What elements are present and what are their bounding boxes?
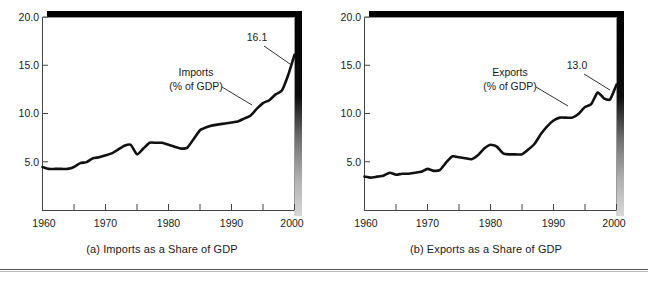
chart-panel-imports: 20.0 15.0 10.0 5.0 1960 1970 1980 1990 2…	[0, 0, 324, 281]
y-tick-label-5: 5.0	[346, 156, 361, 168]
frame-shadow-top	[47, 11, 300, 18]
endpoint-value-label: 13.0	[567, 59, 588, 71]
panel-b-caption: (b) Exports as a Share of GDP	[324, 243, 648, 255]
panel-a-caption: (a) Imports as a Share of GDP	[0, 243, 324, 255]
x-tick-label-1960: 1960	[354, 217, 378, 229]
x-tick-label-2000: 2000	[280, 217, 304, 229]
frame-shadow-right	[616, 11, 624, 216]
endpoint-leader-line	[264, 46, 290, 64]
x-tick-label-1970: 1970	[94, 217, 118, 229]
endpoint-leader-line	[584, 74, 610, 90]
y-tick-label-15: 15.0	[341, 59, 362, 71]
imports-data-line	[43, 55, 295, 169]
y-tick-label-20: 20.0	[341, 11, 362, 23]
frame-shadow-top	[369, 11, 622, 18]
x-tick-label-1960: 1960	[32, 217, 56, 229]
y-tick-label-10: 10.0	[341, 107, 362, 119]
x-tick-label-1990: 1990	[220, 217, 244, 229]
chart-panel-exports: 20.0 15.0 10.0 5.0 1960 1970 1980 1990 2…	[324, 0, 648, 281]
imports-chart-svg: 20.0 15.0 10.0 5.0 1960 1970 1980 1990 2…	[0, 0, 324, 243]
series-annotation-leader	[222, 87, 252, 105]
exports-chart-svg: 20.0 15.0 10.0 5.0 1960 1970 1980 1990 2…	[324, 0, 648, 243]
exports-data-line	[365, 85, 617, 178]
x-tick-label-1980: 1980	[479, 217, 503, 229]
figure-divider-rule-shadow	[0, 271, 648, 272]
series-annotation-leader	[536, 87, 568, 106]
figure-divider-rule	[0, 269, 648, 270]
y-tick-label-10: 10.0	[19, 107, 40, 119]
series-annotation-line1: Imports	[178, 66, 213, 78]
series-annotation-line2: (% of GDP)	[169, 80, 223, 92]
frame-shadow-right	[294, 11, 302, 216]
endpoint-value-label: 16.1	[247, 31, 268, 43]
series-annotation-line1: Exports	[492, 66, 528, 78]
y-tick-label-5: 5.0	[24, 156, 39, 168]
x-tick-label-2000: 2000	[602, 217, 626, 229]
x-tick-label-1990: 1990	[542, 217, 566, 229]
series-annotation-line2: (% of GDP)	[483, 80, 537, 92]
x-tick-label-1980: 1980	[157, 217, 181, 229]
x-tick-label-1970: 1970	[416, 217, 440, 229]
figure-container: 20.0 15.0 10.0 5.0 1960 1970 1980 1990 2…	[0, 0, 648, 281]
y-tick-label-20: 20.0	[19, 11, 40, 23]
y-tick-label-15: 15.0	[19, 59, 40, 71]
